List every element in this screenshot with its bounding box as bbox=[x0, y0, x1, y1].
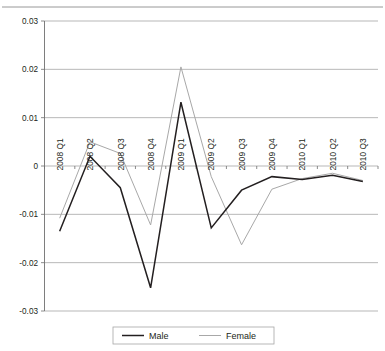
x-tick-label: 2009 Q1 bbox=[176, 138, 186, 170]
y-tick-label: -0.02 bbox=[19, 259, 38, 268]
line-chart: 0.030.020.010-0.01-0.02-0.03 2008 Q12008… bbox=[0, 0, 385, 351]
x-tick-label: 2010 Q2 bbox=[328, 138, 338, 170]
x-tick-label: 2009 Q4 bbox=[267, 138, 277, 170]
x-tick-label: 2009 Q2 bbox=[206, 138, 216, 170]
x-tick-label: 2008 Q2 bbox=[85, 138, 95, 170]
y-axis-tick-labels: 0.030.020.010-0.01-0.02-0.03 bbox=[19, 17, 38, 316]
x-tick-label: 2009 Q3 bbox=[237, 138, 247, 170]
y-tick-label: -0.01 bbox=[19, 210, 38, 219]
y-tick-label: 0 bbox=[33, 162, 38, 171]
y-tick-label: 0.02 bbox=[22, 65, 38, 74]
x-tick-label: 2010 Q3 bbox=[358, 138, 368, 170]
y-tick-label: 0.03 bbox=[22, 17, 38, 26]
x-tick-label: 2008 Q3 bbox=[116, 138, 126, 170]
y-tick-label: -0.03 bbox=[19, 307, 38, 316]
chart-legend: MaleFemale bbox=[113, 327, 274, 344]
x-axis-tick-labels: 2008 Q12008 Q22008 Q32008 Q42009 Q12009 … bbox=[55, 138, 368, 170]
data-series-group bbox=[60, 67, 363, 288]
x-tick-label: 2008 Q1 bbox=[55, 138, 65, 170]
legend-label-female: Female bbox=[226, 331, 256, 341]
chart-container: 0.030.020.010-0.01-0.02-0.03 2008 Q12008… bbox=[0, 0, 385, 351]
y-tick-label: 0.01 bbox=[22, 114, 38, 123]
x-tick-label: 2008 Q4 bbox=[146, 138, 156, 170]
y-axis-tick-marks bbox=[41, 21, 45, 311]
x-tick-label: 2010 Q1 bbox=[297, 138, 307, 170]
legend-label-male: Male bbox=[149, 331, 169, 341]
series-line-male bbox=[60, 102, 363, 288]
